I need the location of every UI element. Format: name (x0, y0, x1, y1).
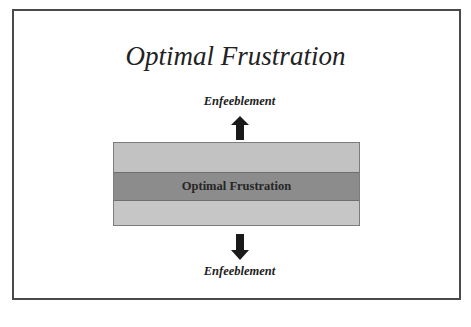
lower-light-band (114, 201, 359, 225)
optimal-frustration-band: Optimal Frustration (114, 172, 359, 201)
arrow-down-icon (231, 234, 249, 264)
top-enfeeblement-label: Enfeeblement (0, 94, 471, 108)
bottom-enfeeblement-label: Enfeeblement (0, 264, 471, 278)
optimal-frustration-band-label: Optimal Frustration (114, 173, 359, 200)
slide-title: Optimal Frustration (0, 41, 471, 71)
frustration-band-panel: Optimal Frustration (113, 142, 360, 226)
arrow-up-icon (231, 116, 249, 144)
upper-light-band (114, 143, 359, 172)
